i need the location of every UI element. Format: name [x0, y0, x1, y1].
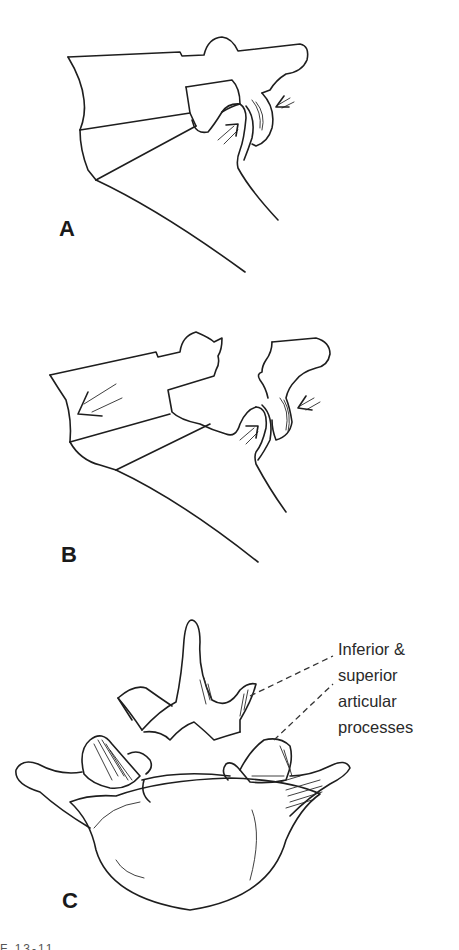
annotation-line: articular [338, 688, 413, 714]
annotation-articular-processes: Inferior & superior articular processes [338, 636, 413, 740]
compression-arrow-icon [298, 396, 320, 410]
leader-line-superior [274, 684, 333, 740]
compression-arrow-icon [218, 124, 238, 144]
panel-c-drawing [0, 580, 459, 940]
panel-label-c: C [62, 888, 78, 914]
compression-arrow-icon [276, 96, 294, 108]
annotation-line: Inferior & [338, 636, 413, 662]
panel-a: A [0, 0, 459, 290]
annotation-line: superior [338, 662, 413, 688]
leader-line-inferior [250, 656, 333, 696]
panel-b: B [0, 280, 459, 590]
panel-a-drawing [0, 0, 459, 290]
panel-label-b: B [61, 542, 77, 568]
panel-label-a: A [59, 216, 75, 242]
annotation-line: processes [338, 714, 413, 740]
compression-arrow-icon [240, 426, 258, 444]
figure-caption-fragment: F 13-11 [0, 942, 54, 950]
panel-c: Inferior & superior articular processes … [0, 580, 459, 940]
translation-arrow-icon [78, 384, 122, 416]
